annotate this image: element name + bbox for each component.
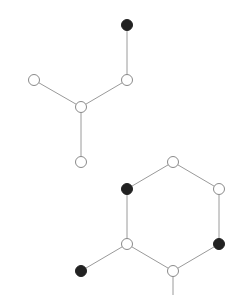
- bond-n6-n7: [127, 162, 173, 189]
- bond-n9-n12: [81, 244, 127, 271]
- bond-n10-n11: [173, 244, 219, 271]
- light-atom-node-n9: [122, 239, 133, 250]
- bonds-layer: [34, 25, 219, 295]
- dark-atom-node-n10: [214, 239, 225, 250]
- dark-atom-node-n12: [76, 266, 87, 277]
- molecule-diagram: [0, 0, 244, 295]
- bond-n2-n4: [81, 80, 127, 107]
- bond-n9-n11: [127, 244, 173, 271]
- light-atom-node-n11: [168, 266, 179, 277]
- dark-atom-node-n7: [122, 184, 133, 195]
- bond-n6-n8: [173, 162, 219, 189]
- light-atom-node-n2: [122, 75, 133, 86]
- dark-atom-node-n1: [122, 20, 133, 31]
- light-atom-node-n5: [76, 157, 87, 168]
- light-atom-node-n3: [29, 75, 40, 86]
- light-atom-node-n6: [168, 157, 179, 168]
- bond-n3-n4: [34, 80, 81, 107]
- light-atom-node-n4: [76, 102, 87, 113]
- light-atom-node-n8: [214, 184, 225, 195]
